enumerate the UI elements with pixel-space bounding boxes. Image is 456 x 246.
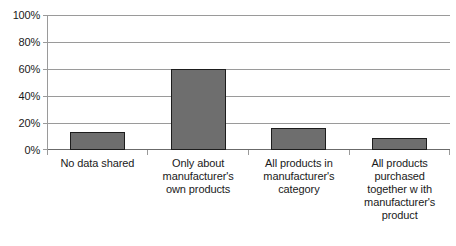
bar-only-own-products[interactable] xyxy=(171,69,226,150)
x-tick-mark xyxy=(349,150,350,155)
x-tick-mark xyxy=(449,150,450,155)
plot-area xyxy=(47,15,450,150)
y-tick-label: 0% xyxy=(25,145,41,156)
bar-slot xyxy=(349,15,450,150)
category-label-only-own-products: Only about manufacturer's own products xyxy=(148,157,249,222)
category-label-all-products-in-category: All products in manufacturer's category xyxy=(249,157,350,222)
bar-series xyxy=(47,15,450,150)
x-axis-labels: No data shared Only about manufacturer's… xyxy=(47,157,450,222)
bar-all-products-in-category[interactable] xyxy=(271,128,326,150)
x-tick-mark xyxy=(47,150,48,155)
bar-slot xyxy=(148,15,249,150)
y-tick-label: 100% xyxy=(13,10,40,21)
y-axis-labels: 100% 80% 60% 40% 20% 0% xyxy=(0,0,44,246)
bar-all-products-purchased-together[interactable] xyxy=(372,138,427,150)
bar-no-data-shared[interactable] xyxy=(70,132,125,150)
x-tick-mark xyxy=(147,150,148,155)
y-tick-label: 40% xyxy=(19,91,40,102)
y-tick-label: 80% xyxy=(19,37,40,48)
category-label-no-data-shared: No data shared xyxy=(47,157,148,222)
category-label-all-products-purchased-together: All products purchased together w ith ma… xyxy=(349,157,450,222)
y-tick-label: 60% xyxy=(19,64,40,75)
bar-chart: 100% 80% 60% 40% 20% 0% xyxy=(0,0,456,246)
y-tick-label: 20% xyxy=(19,118,40,129)
x-axis-ticks xyxy=(47,150,450,155)
bar-slot xyxy=(249,15,350,150)
bar-slot xyxy=(47,15,148,150)
x-tick-mark xyxy=(248,150,249,155)
